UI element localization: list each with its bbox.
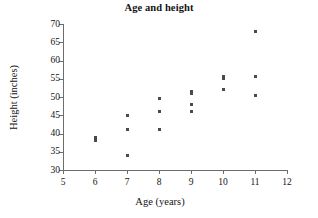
- y-tick-label: 55: [51, 72, 61, 84]
- data-point: [126, 114, 129, 117]
- chart-title: Age and height: [0, 2, 318, 13]
- x-tick-label: 9: [181, 176, 201, 188]
- y-tick-label: 35: [51, 145, 61, 157]
- data-point: [190, 110, 193, 113]
- x-tick-label: 8: [149, 176, 169, 188]
- y-tick-label: 70: [51, 18, 61, 30]
- x-tick-label: 6: [85, 176, 105, 188]
- data-point: [126, 154, 129, 157]
- y-tick-label: 45: [51, 109, 61, 121]
- data-point: [158, 97, 161, 100]
- data-point: [254, 30, 257, 33]
- x-tick-label: 12: [277, 176, 297, 188]
- data-point: [94, 139, 97, 142]
- data-point: [158, 110, 161, 113]
- data-point: [158, 128, 161, 131]
- data-point: [190, 92, 193, 95]
- y-tick-label: 65: [51, 36, 61, 48]
- plot-area: 303540455055606570 56789101112: [63, 24, 286, 170]
- y-tick-label: 40: [51, 127, 61, 139]
- x-tick-mark: [287, 170, 288, 174]
- data-point: [254, 75, 257, 78]
- scatter-chart-figure: Age and height Height (inches) Age (year…: [0, 0, 318, 218]
- data-point: [190, 103, 193, 106]
- data-point: [126, 128, 129, 131]
- y-axis-label: Height (inches): [8, 38, 19, 158]
- x-tick-label: 7: [117, 176, 137, 188]
- y-tick-label: 60: [51, 54, 61, 66]
- x-tick-label: 11: [245, 176, 265, 188]
- y-tick-label: 30: [51, 164, 61, 176]
- y-tick-label: 50: [51, 91, 61, 103]
- data-point: [222, 88, 225, 91]
- x-axis-label: Age (years): [40, 196, 280, 207]
- data-point: [254, 94, 257, 97]
- x-tick-label: 10: [213, 176, 233, 188]
- data-point: [94, 136, 97, 139]
- data-point: [222, 77, 225, 80]
- data-points-layer: [63, 24, 287, 171]
- x-tick-label: 5: [53, 176, 73, 188]
